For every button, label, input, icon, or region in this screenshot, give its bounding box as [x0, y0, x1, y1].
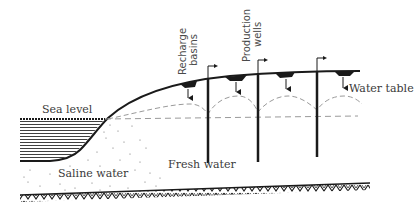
svg-text:wells: wells — [252, 22, 263, 47]
water-table-dashed-line — [108, 96, 362, 119]
recharge-basin-4 — [335, 72, 354, 76]
svg-text:Production: Production — [241, 9, 252, 62]
fresh-water-label: Fresh water — [168, 158, 237, 171]
infiltration-arrows — [188, 77, 343, 98]
recharge-basin-3 — [275, 72, 295, 78]
sea-water — [20, 119, 105, 161]
bedrock — [20, 183, 370, 202]
svg-text:Recharge: Recharge — [177, 28, 188, 75]
recharge-basins-label: Recharge basins — [177, 28, 199, 75]
saline-water-label: Saline water — [58, 167, 129, 180]
land-surface — [50, 71, 360, 161]
sea-level-label: Sea level — [42, 103, 93, 116]
production-wells-label: Production wells — [241, 9, 263, 62]
water-table-label: Water table — [349, 82, 414, 95]
seawater-intrusion-diagram: Sea level Saline water Fresh water Water… — [0, 0, 416, 214]
svg-text:basins: basins — [188, 34, 199, 66]
sea-level-dashed-line — [105, 116, 358, 119]
